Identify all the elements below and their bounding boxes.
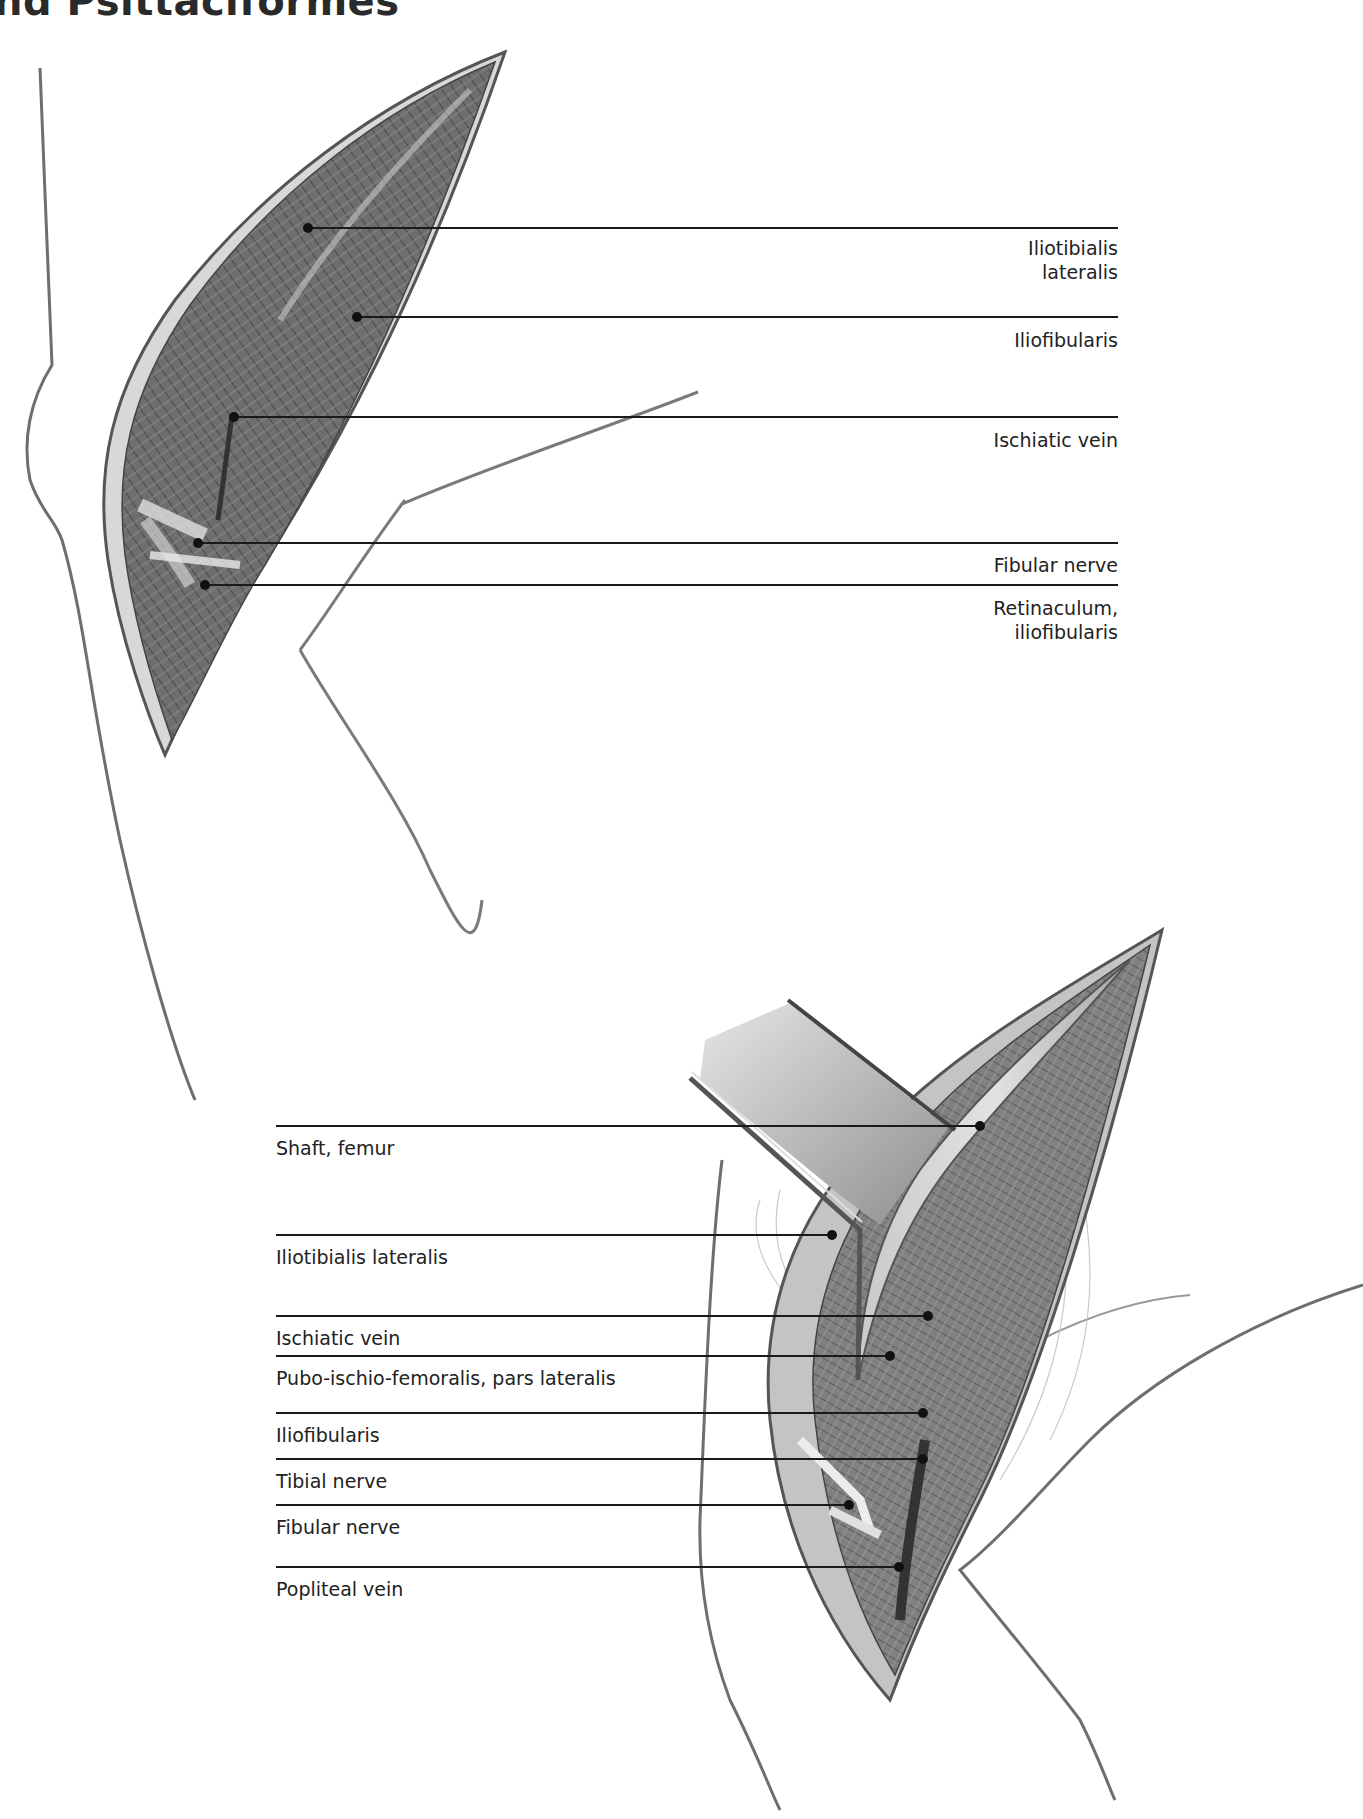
label-iliofibularis-top: Iliofibularis	[1014, 328, 1118, 352]
top-figure	[27, 52, 698, 1100]
bottom-figure	[690, 930, 1363, 1810]
label-iliotibialis-lateralis-bottom: Iliotibialis lateralis	[276, 1245, 448, 1269]
label-popliteal-vein: Popliteal vein	[276, 1577, 403, 1601]
label-tibial-nerve: Tibial nerve	[276, 1469, 387, 1493]
label-retinaculum-iliofibularis: Retinaculum, iliofibularis	[993, 596, 1118, 644]
label-shaft-femur: Shaft, femur	[276, 1136, 394, 1160]
body-outline-bottom	[700, 1160, 780, 1810]
label-line: Iliotibialis	[1028, 236, 1118, 260]
anatomy-illustration	[0, 0, 1363, 1819]
label-iliofibularis-bottom: Iliofibularis	[276, 1423, 380, 1447]
leg-outline	[300, 392, 698, 933]
label-pubo-ischio-femoralis: Pubo-ischio-femoralis, pars lateralis	[276, 1366, 616, 1390]
label-line: lateralis	[1028, 260, 1118, 284]
label-ischiatic-vein-bottom: Ischiatic vein	[276, 1326, 400, 1350]
label-fibular-nerve-bottom: Fibular nerve	[276, 1515, 400, 1539]
label-iliotibialis-lateralis-top: Iliotibialis lateralis	[1028, 236, 1118, 284]
label-ischiatic-vein-top: Ischiatic vein	[994, 428, 1118, 452]
label-line: Retinaculum,	[993, 596, 1118, 620]
label-line: iliofibularis	[993, 620, 1118, 644]
label-fibular-nerve-top: Fibular nerve	[994, 553, 1118, 577]
